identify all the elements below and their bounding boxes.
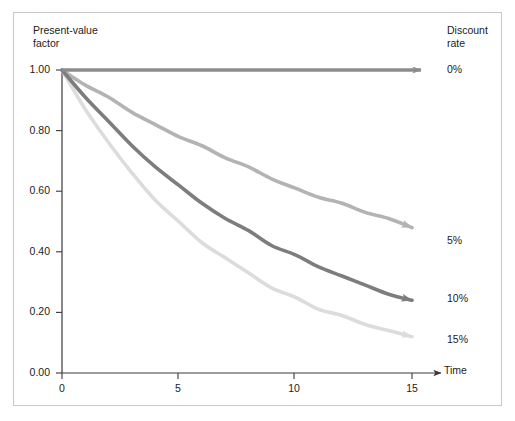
series-label-15: 15% (447, 333, 468, 346)
y-tick-label-0-20: 0.20 (16, 305, 50, 318)
x-tick-label-15: 15 (400, 382, 424, 395)
x-tick-label-10: 10 (282, 382, 306, 395)
series-label-5: 5% (447, 234, 462, 247)
y-axis-ticks (56, 70, 62, 373)
x-tick-label-5: 5 (166, 382, 190, 395)
series-line-15 (62, 70, 412, 337)
y-tick-label-0-40: 0.40 (16, 245, 50, 258)
series-label-10: 10% (447, 292, 468, 305)
series-label-0: 0% (447, 63, 462, 76)
y-axis-title: Present-valuefactor (33, 24, 98, 50)
legend-title: Discountrate (447, 24, 488, 50)
legend-title-line1: Discount (447, 24, 488, 36)
x-axis-ticks (62, 373, 412, 379)
figure-container: Present-valuefactor Discountrate 1.00 0.… (0, 0, 515, 421)
legend-title-line2: rate (447, 37, 465, 49)
chart-plot-area (0, 0, 515, 421)
y-tick-label-0-00: 0.00 (16, 366, 50, 379)
y-axis-title-line2: factor (33, 37, 59, 49)
y-tick-label-1-00: 1.00 (16, 63, 50, 76)
y-axis-title-line1: Present-value (33, 24, 98, 36)
y-tick-label-0-60: 0.60 (16, 184, 50, 197)
x-tick-label-0: 0 (50, 382, 74, 395)
x-axis-title: Time (444, 364, 467, 377)
y-tick-label-0-80: 0.80 (16, 124, 50, 137)
